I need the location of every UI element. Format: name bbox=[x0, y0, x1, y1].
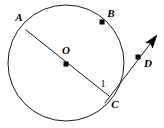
ray-segment-cd bbox=[105, 41, 153, 103]
geometry-figure: A B O C D 1 bbox=[0, 0, 164, 128]
angle-label-1: 1 bbox=[101, 78, 106, 89]
point-dot-o bbox=[64, 62, 69, 67]
point-label-d: D bbox=[143, 57, 152, 69]
point-label-b: B bbox=[106, 7, 114, 19]
point-label-a: A bbox=[14, 11, 22, 23]
point-dot-d bbox=[136, 55, 141, 60]
point-label-o: O bbox=[62, 44, 70, 56]
point-dot-b bbox=[100, 20, 105, 25]
point-label-c: C bbox=[111, 98, 119, 110]
geometry-canvas: A B O C D 1 bbox=[0, 0, 164, 128]
ray-arrowhead-icon bbox=[146, 35, 157, 48]
